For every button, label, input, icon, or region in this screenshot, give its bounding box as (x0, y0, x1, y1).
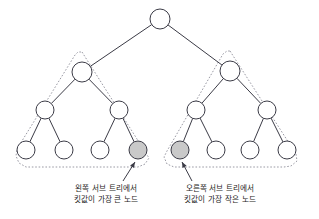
tree-node (278, 141, 296, 159)
tree-node (17, 141, 35, 159)
tree-node (207, 141, 225, 159)
tree-nodes-layer (17, 9, 296, 159)
tree-node-highlighted (129, 141, 147, 159)
tree-edge (271, 118, 283, 142)
tree-edge (202, 79, 224, 104)
tree-node (187, 101, 205, 119)
binary-tree-diagram: 왼쪽 서브 트리에서킷값이 가장 큰 노드오른쪽 서브 트리에서킷값이 가장 작… (0, 0, 319, 219)
tree-edge (51, 79, 75, 103)
diagram-canvas: 왼쪽 서브 트리에서킷값이 가장 큰 노드오른쪽 서브 트리에서킷값이 가장 작… (0, 0, 319, 219)
tree-node (55, 141, 73, 159)
tree-edge (254, 118, 264, 141)
tree-edge (104, 118, 115, 142)
tree-edge (123, 118, 134, 142)
tree-edge (90, 25, 151, 67)
annotation-caption-line: 왼쪽 서브 트리에서 (75, 184, 137, 193)
right-annotation: 오른쪽 서브 트리에서킷값이 가장 작은 노드 (182, 162, 256, 204)
tree-node (241, 141, 259, 159)
tree-node (220, 61, 240, 81)
tree-node (91, 141, 109, 159)
annotation-caption-line: 킷값이 가장 작은 노드 (184, 194, 255, 204)
tree-node (36, 101, 54, 119)
annotations-layer: 왼쪽 서브 트리에서킷값이 가장 큰 노드오른쪽 서브 트리에서킷값이 가장 작… (74, 162, 256, 204)
tree-node (258, 101, 276, 119)
tree-edges-layer (30, 25, 283, 142)
tree-edge (237, 78, 261, 103)
tree-node (72, 62, 92, 82)
tree-edge (183, 118, 192, 141)
tree-edge (168, 25, 222, 65)
annotation-caption-line: 오른쪽 서브 트리에서 (186, 184, 255, 193)
tree-node (150, 9, 170, 29)
tree-edge (200, 118, 212, 142)
annotation-caption-line: 킷값이 가장 큰 노드 (74, 194, 138, 204)
tree-node-highlighted (171, 141, 189, 159)
left-annotation: 왼쪽 서브 트리에서킷값이 가장 큰 노드 (74, 162, 138, 204)
tree-edge (30, 118, 41, 142)
tree-edge (89, 79, 113, 103)
tree-edge (49, 118, 60, 142)
tree-node (110, 101, 128, 119)
